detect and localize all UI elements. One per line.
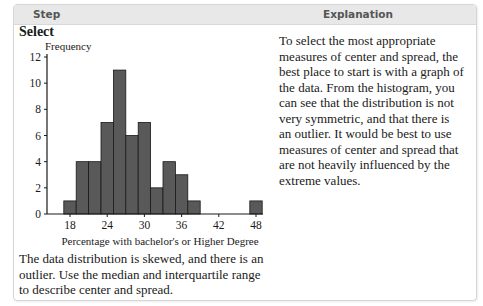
histogram-bar [250,201,262,214]
y-tick-label: 6 [35,130,41,142]
x-tick-label: 30 [139,219,151,231]
y-tick-label: 2 [35,182,41,194]
y-tick-label: 0 [35,208,41,220]
histogram-bar [138,122,150,214]
histogram-bar [76,162,88,214]
histogram-bar [151,188,163,214]
histogram-bar [89,162,101,214]
histogram-bar [188,201,200,214]
x-tick-label: 42 [213,219,225,231]
x-tick-label: 48 [250,219,262,231]
explanation-text: To select the most appropriate measures … [279,33,464,188]
histogram-bar [126,136,138,215]
x-tick-label: 36 [176,219,188,231]
x-axis-label: Percentage with bachelor's or Higher Deg… [61,235,258,247]
histogram-bar [113,70,125,214]
histogram-bar [163,162,175,214]
x-tick-label: 24 [101,219,113,231]
y-tick-label: 8 [35,103,41,115]
histogram-bar [64,201,76,214]
histogram-bar [175,175,187,214]
y-tick-label: 10 [30,77,42,89]
y-tick-label: 4 [35,156,41,168]
x-tick-label: 18 [64,219,76,231]
y-tick-label: 12 [30,51,42,63]
step-conclusion: The data distribution is skewed, and the… [19,251,269,298]
histogram-bar [101,122,113,214]
y-axis-label: Frequency [45,40,92,52]
